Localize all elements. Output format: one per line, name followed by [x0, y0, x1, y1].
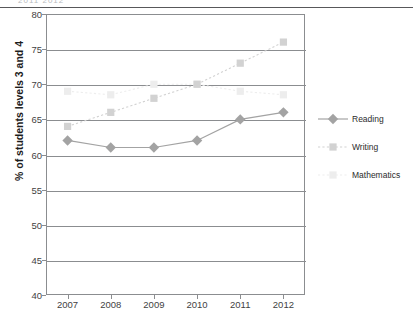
- series-line: [68, 84, 284, 95]
- legend-swatch-writing: [318, 140, 348, 154]
- series-line: [68, 42, 284, 126]
- x-axis-tick-labels: 200720082009201020112012: [46, 299, 305, 314]
- x-axis-tick-label: 2009: [134, 299, 174, 310]
- y-axis-tick-label: 75: [2, 44, 42, 55]
- legend-item-reading[interactable]: Reading: [318, 112, 413, 140]
- data-point-marker: [106, 142, 116, 152]
- legend-item-writing[interactable]: Writing: [318, 140, 413, 168]
- chart-legend: ReadingWritingMathematics: [318, 112, 413, 196]
- data-point-marker: [328, 114, 338, 124]
- y-axis-tick-label: 55: [2, 184, 42, 195]
- series-layer: [46, 14, 305, 295]
- header-strip: 2011 2012: [0, 0, 413, 9]
- data-point-marker: [150, 81, 157, 88]
- data-point-marker: [149, 142, 159, 152]
- y-axis-tick-label: 70: [2, 79, 42, 90]
- y-axis-tick-labels: 404550556065707580: [0, 14, 42, 295]
- data-point-marker: [235, 114, 245, 124]
- legend-swatch-reading: [318, 112, 348, 126]
- legend-label: Reading: [352, 114, 384, 124]
- y-axis-tick-mark: [42, 295, 46, 296]
- series-reading: [62, 107, 288, 153]
- y-axis-tick-label: 60: [2, 149, 42, 160]
- x-axis-tick-label: 2007: [48, 299, 88, 310]
- data-point-marker: [237, 60, 244, 67]
- data-point-marker: [150, 95, 157, 102]
- y-axis-tick-label: 45: [2, 254, 42, 265]
- data-point-marker: [280, 38, 287, 45]
- data-point-marker: [237, 88, 244, 95]
- x-axis-tick-label: 2008: [91, 299, 131, 310]
- data-point-marker: [64, 123, 71, 130]
- header-ghost-text: 2011 2012: [18, 0, 64, 5]
- data-point-marker: [329, 171, 336, 178]
- data-point-marker: [64, 88, 71, 95]
- legend-label: Writing: [352, 142, 378, 152]
- x-axis-tick-label: 2012: [263, 299, 303, 310]
- y-axis-tick-label: 65: [2, 114, 42, 125]
- legend-item-mathematics[interactable]: Mathematics: [318, 168, 413, 196]
- y-axis-tick-label: 50: [2, 219, 42, 230]
- data-point-marker: [107, 91, 114, 98]
- header-divider: [0, 7, 413, 8]
- series-writing: [64, 38, 287, 130]
- y-axis-tick-label: 80: [2, 9, 42, 20]
- y-axis-tick-label: 40: [2, 290, 42, 301]
- data-point-marker: [192, 135, 202, 145]
- legend-swatch-mathematics: [318, 168, 348, 182]
- data-point-marker: [62, 135, 72, 145]
- data-point-marker: [107, 109, 114, 116]
- data-point-marker: [193, 81, 200, 88]
- x-axis-tick-label: 2010: [177, 299, 217, 310]
- data-point-marker: [329, 143, 336, 150]
- series-mathematics: [64, 81, 287, 99]
- data-point-marker: [278, 107, 288, 117]
- data-point-marker: [280, 91, 287, 98]
- legend-label: Mathematics: [352, 170, 400, 180]
- series-line: [68, 112, 284, 147]
- x-axis-tick-label: 2011: [220, 299, 260, 310]
